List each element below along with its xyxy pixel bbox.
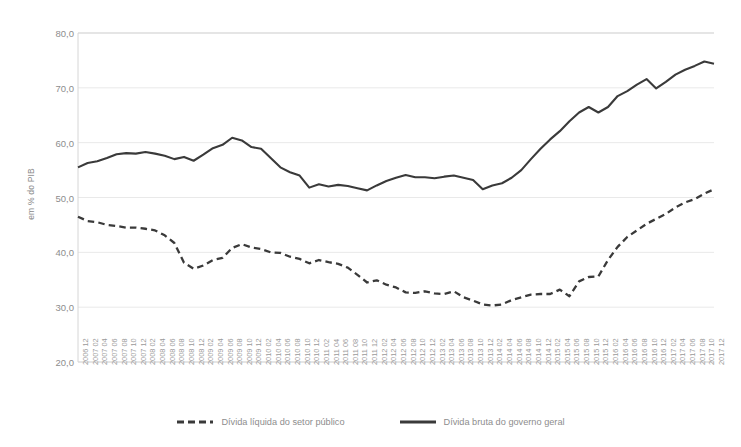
legend-label: Dívida bruta do governo geral [444, 417, 565, 427]
debt-ratio-line-chart: em % do PIB 20,030,040,050,060,070,080,0… [0, 0, 741, 447]
gridlines [78, 33, 714, 362]
chart-legend: Dívida líquida do setor públicoDívida br… [0, 412, 741, 432]
legend-item-1[interactable]: Dívida líquida do setor público [176, 417, 344, 427]
data-series-lines [78, 62, 714, 306]
plot-area [0, 0, 741, 447]
legend-label: Dívida líquida do setor público [221, 417, 344, 427]
solid-line-swatch [399, 417, 437, 427]
series-line-2 [78, 189, 714, 305]
dashed-line-swatch [176, 417, 214, 427]
legend-item-2[interactable]: Dívida bruta do governo geral [399, 417, 565, 427]
series-line-1 [78, 62, 714, 191]
